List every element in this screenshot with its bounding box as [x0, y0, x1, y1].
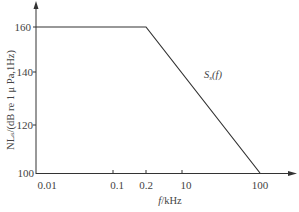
x-tick-label: 0.1 — [110, 179, 124, 191]
series-line-ss — [36, 27, 260, 173]
y-tick-label: 140 — [17, 66, 34, 78]
y-tick-label: 120 — [17, 119, 34, 131]
x-tick-label: 0.01 — [37, 179, 56, 191]
series-label: Ss(f) — [204, 69, 222, 82]
y-axis-label: NLₛ/(dB re 1 μ Pa,1Hz) — [5, 50, 17, 150]
y-axis-arrow-icon — [34, 1, 39, 9]
chart: 160 140 120 100 0.01 0.1 0.2 10 100 f/kH… — [0, 0, 299, 212]
x-ticks — [113, 170, 182, 173]
y-tick-label: 160 — [15, 21, 32, 33]
x-tick-label: 0.2 — [139, 179, 153, 191]
y-tick-label: 100 — [18, 167, 35, 179]
x-tick-label: 100 — [252, 179, 269, 191]
x-tick-label: 10 — [181, 179, 193, 191]
x-axis-label: f/kHz — [158, 195, 182, 206]
x-axis-arrow-icon — [288, 171, 297, 176]
